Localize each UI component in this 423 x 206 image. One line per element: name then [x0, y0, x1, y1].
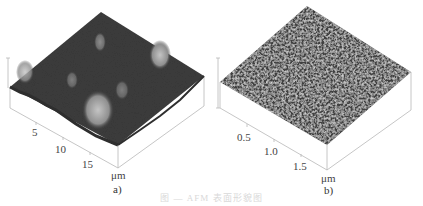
afm-surface-b — [211, 0, 423, 190]
x-tick-label: 1.5 — [293, 161, 307, 172]
unit-label: μm — [111, 170, 125, 181]
x-tick-label: 1.0 — [264, 146, 278, 157]
figure-caption: 图 — AFM 表面形貌图 — [0, 194, 423, 203]
afm-surface-a — [0, 0, 211, 190]
x-tick-label: 0.5 — [237, 132, 251, 143]
x-tick-label: 5 — [32, 127, 38, 138]
x-tick-label: 15 — [82, 159, 93, 170]
afm-panel-b: 0.5 1.0 1.5 μm b) — [211, 0, 423, 190]
afm-panel-a: 5 10 15 μm a) — [0, 0, 211, 190]
unit-label: μm — [321, 173, 335, 184]
x-tick-label: 10 — [55, 144, 66, 155]
